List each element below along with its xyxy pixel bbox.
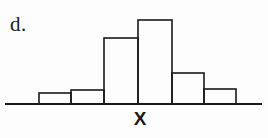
histogram-bar (138, 20, 172, 104)
bars-group (39, 20, 236, 104)
histogram-bar (39, 93, 71, 104)
histogram-figure: d. X (0, 0, 268, 138)
histogram-bar (172, 73, 204, 104)
panel-label: d. (10, 12, 27, 36)
histogram-bar (204, 89, 236, 104)
x-axis-label: X (0, 108, 268, 130)
histogram-bar (104, 38, 138, 104)
x-axis-label-text: X (134, 108, 147, 129)
histogram-bar (71, 90, 104, 104)
